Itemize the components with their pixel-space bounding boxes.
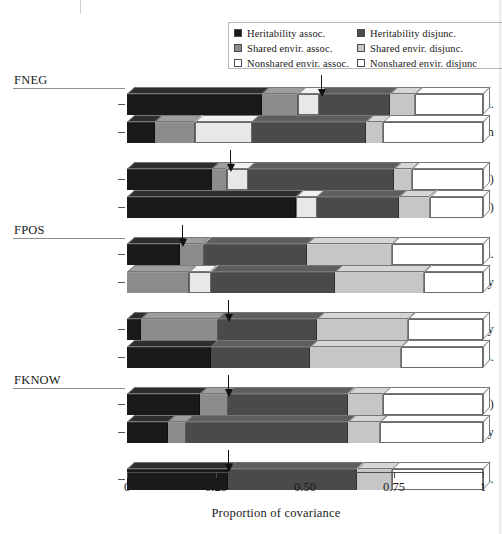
bar-segment-top-face [248,162,402,169]
bar-segment-top-face [127,340,218,347]
legend-item-heritability-assoc: Heritability assoc. [234,26,349,40]
bar-segment[interactable] [218,319,318,340]
bar-segment[interactable] [180,244,203,265]
bar-segment[interactable] [127,272,189,293]
bar-segment[interactable] [127,422,168,443]
bar-segment[interactable] [127,197,296,218]
bar-row: Social respons. [0,344,502,372]
bar-segment-top-face [141,312,225,319]
bar-segment[interactable] [155,122,194,143]
bar-segment[interactable] [127,122,155,143]
legend-label-shared-envir-assoc: Shared envir. assoc. [247,43,332,54]
bar-segment[interactable] [127,94,262,115]
bar-segment-top-face [317,190,407,197]
bar-segment[interactable] [390,94,415,115]
bar-segment[interactable] [430,197,483,218]
bar-group: FKNOWAntisocial beh. (-)Cog. agency [0,372,502,447]
legend-label-heritability-assoc: Heritability assoc. [247,28,325,39]
bar-segment[interactable] [127,347,211,368]
bar-segment[interactable] [168,422,186,443]
bar-segment[interactable] [200,394,228,415]
bar-segment[interactable] [262,94,298,115]
bar-segment[interactable] [310,347,401,368]
bar-segment[interactable] [401,347,483,368]
bar-row: Social respons. (-) [0,194,502,222]
bar-row: Sociability [0,269,502,297]
bar-segment[interactable] [248,169,394,190]
bar-segment[interactable] [317,197,399,218]
bar-segment[interactable] [127,169,212,190]
figure-canvas: Heritability assoc. Shared envir. assoc.… [0,0,502,534]
group-underline [13,388,125,389]
x-axis-tick [305,472,306,478]
bar-segment[interactable] [408,319,483,340]
bar-segment-top-face [415,87,490,94]
bar-segment[interactable] [252,122,366,143]
bar-segment[interactable] [394,169,412,190]
legend-item-nonshared-envir-disjunc: Nonshared envir. disjunc [357,56,477,70]
bar-segment[interactable] [319,94,390,115]
annotation-arrow [224,450,233,472]
bar-segment[interactable] [317,319,408,340]
bar-segment[interactable] [195,122,252,143]
bar-segment[interactable] [366,122,384,143]
bar-group: Cog. agency (-)Social respons. (-) [0,147,502,222]
bar-row: Depression [0,119,502,147]
bar-segment[interactable] [383,122,483,143]
bar-segment-top-face [211,340,318,347]
x-axis: Proportion of covariance 00.250.500.751 [0,470,502,534]
bar-segment[interactable] [127,394,200,415]
annotation-arrow [224,300,233,322]
bar-segment[interactable] [348,422,380,443]
bar-segment[interactable] [127,244,180,265]
bar-segment[interactable] [383,394,483,415]
bar-segment[interactable] [296,197,317,218]
legend-item-shared-envir-assoc: Shared envir. assoc. [234,41,349,55]
bar-segment-top-face [211,265,343,272]
legend-swatch-heritability-assoc [234,29,242,37]
bar-segment-top-face [310,340,409,347]
bar-segment[interactable] [204,244,307,265]
annotation-arrow [317,75,326,97]
legend-item-heritability-disjunc: Heritability disjunc. [357,26,477,40]
bar-segment[interactable] [307,244,392,265]
bar-segment[interactable] [186,422,348,443]
bar-segment[interactable] [424,272,483,293]
x-axis-tick-label: 0.75 [374,480,414,495]
bar-segment[interactable] [227,169,248,190]
bar-segment[interactable] [141,319,218,340]
bar-segment[interactable] [380,422,483,443]
bar-segment[interactable] [189,272,210,293]
annotation-arrow [226,150,235,172]
bar-segment-top-face [252,115,374,122]
bar-segment[interactable] [212,169,226,190]
y-axis-tick [118,357,125,358]
y-axis-line [125,72,126,474]
bar-segment-top-face [218,312,325,319]
group-title: FKNOW [14,373,61,388]
bar-segment[interactable] [412,169,483,190]
bar-segment[interactable] [399,197,429,218]
bar-segment[interactable] [228,394,347,415]
x-axis-tick-label: 0 [107,480,147,495]
bar-segment[interactable] [392,244,483,265]
bar-segment-top-face [204,237,315,244]
bar-segment[interactable] [298,94,319,115]
group-title: FPOS [14,223,45,238]
bar-segment[interactable] [211,347,311,368]
bar-segment-top-face [127,190,304,197]
x-axis-tick [394,472,395,478]
bar-segment-top-face [195,115,260,122]
chart-plot-area: FNEGAntisocial beh.DepressionCog. agency… [0,72,502,472]
bar-segment[interactable] [415,94,483,115]
bar-segment-top-face [307,237,400,244]
legend-column-right: Heritability disjunc. Shared envir. disj… [357,26,477,71]
bar-segment[interactable] [348,394,384,415]
bar-segment[interactable] [127,319,141,340]
bar-segment[interactable] [211,272,336,293]
y-axis-tick [118,282,125,283]
bar-segment[interactable] [335,272,424,293]
x-axis-tick-label: 1 [463,480,502,495]
bar-segment-top-face [127,462,236,469]
y-axis-tick [118,254,125,255]
